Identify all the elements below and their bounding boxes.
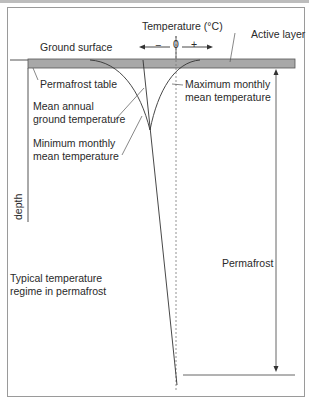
caption-line2: regime in permafrost [10, 285, 106, 298]
max-monthly-leader [172, 84, 183, 85]
plus-sign: + [191, 38, 197, 51]
plus-arrow-head [207, 45, 213, 50]
min-monthly-line1: Minimum monthly [33, 137, 119, 150]
minus-sign: − [155, 39, 161, 52]
max-monthly-label: Maximum monthly mean temperature [185, 78, 271, 103]
min-monthly-label: Minimum monthly mean temperature [33, 137, 119, 162]
arrow-up-head [274, 69, 279, 75]
zero-label: 0 [173, 38, 179, 51]
permafrost-label: Permafrost [222, 257, 273, 270]
arrow-down-head [274, 366, 279, 372]
max-monthly-line2: mean temperature [185, 91, 271, 104]
mean-annual-label: Mean annual ground temperature [33, 100, 125, 125]
mean-annual-line1: Mean annual [33, 100, 125, 113]
mean-annual-line2: ground temperature [33, 113, 125, 126]
mean-annual-temperature-line [143, 60, 177, 385]
permafrost-table-leader [33, 68, 38, 80]
figure-caption: Typical temperature regime in permafrost [10, 272, 106, 297]
caption-line1: Typical temperature [10, 272, 106, 285]
depth-axis-label: depth [12, 194, 24, 220]
active-layer-leader [230, 33, 235, 62]
temperature-axis-label: Temperature (°C) [142, 20, 223, 33]
minus-arrow-head [139, 45, 145, 50]
permafrost-table-label: Permafrost table [40, 78, 117, 91]
min-monthly-line2: mean temperature [33, 150, 119, 163]
active-layer-band [28, 59, 295, 68]
active-layer-label: Active layer [251, 28, 305, 41]
max-monthly-line1: Maximum monthly [185, 78, 271, 91]
ground-surface-label: Ground surface [40, 41, 112, 54]
